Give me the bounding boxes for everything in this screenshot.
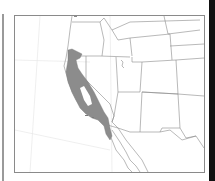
range-map [0,0,215,181]
